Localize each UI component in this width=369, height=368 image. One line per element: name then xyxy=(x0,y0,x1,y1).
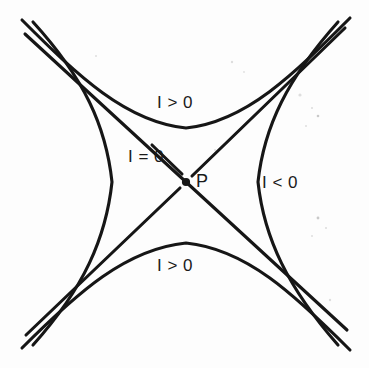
label-region-top: I > 0 xyxy=(157,94,193,111)
figure-canvas xyxy=(0,0,369,368)
label-asymptote: I = 0 xyxy=(128,148,164,165)
label-region-right: I < 0 xyxy=(262,174,298,191)
label-region-bottom: I > 0 xyxy=(157,257,193,274)
intersection-point-marker xyxy=(182,178,190,186)
hyperbola-figure: I > 0 I > 0 I < 0 I = 0 P xyxy=(0,0,369,368)
hyperbola-branch-left xyxy=(33,22,112,345)
label-point-p: P xyxy=(196,172,208,190)
asymptote-line-ne-center xyxy=(192,28,345,176)
